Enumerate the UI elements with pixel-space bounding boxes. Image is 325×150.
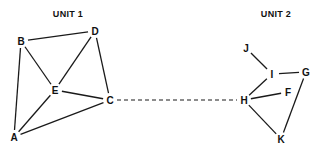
node-label-h: H bbox=[240, 95, 247, 106]
diagram-canvas: UNIT 1UNIT 2 BDECAJIGHFK bbox=[0, 0, 325, 150]
edge-h-f bbox=[251, 93, 281, 99]
graph-edges bbox=[0, 0, 325, 150]
edge-h-k bbox=[249, 105, 276, 134]
edge-i-h bbox=[249, 79, 267, 95]
edge-b-a bbox=[15, 48, 21, 130]
edge-e-c bbox=[62, 91, 103, 99]
node-label-f: F bbox=[285, 87, 291, 98]
node-label-j: J bbox=[243, 43, 249, 54]
edge-e-a bbox=[19, 95, 51, 131]
edge-d-e bbox=[59, 37, 91, 84]
unit-title-unit1: UNIT 1 bbox=[53, 9, 83, 19]
node-label-k: K bbox=[277, 134, 284, 145]
edge-a-c bbox=[21, 103, 104, 135]
edge-layer bbox=[15, 32, 304, 135]
node-label-b: B bbox=[17, 36, 24, 47]
node-label-d: D bbox=[91, 26, 98, 37]
node-label-a: A bbox=[10, 132, 17, 143]
edge-j-i bbox=[251, 53, 267, 69]
node-label-g: G bbox=[302, 67, 310, 78]
node-label-i: I bbox=[271, 69, 274, 80]
edge-b-e bbox=[25, 47, 51, 85]
node-label-e: E bbox=[52, 85, 59, 96]
node-label-c: C bbox=[106, 95, 113, 106]
edge-i-g bbox=[279, 72, 299, 73]
unit-title-unit2: UNIT 2 bbox=[261, 9, 291, 19]
edge-b-d bbox=[28, 32, 88, 40]
edge-d-c bbox=[96, 38, 108, 93]
